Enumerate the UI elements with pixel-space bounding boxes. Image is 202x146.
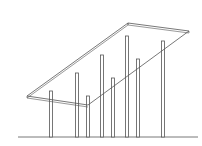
column-7 (137, 59, 140, 137)
slab-columns-diagram (0, 0, 202, 146)
column-1 (50, 91, 53, 137)
column-6 (126, 36, 129, 137)
column-8 (162, 41, 165, 137)
column-3 (87, 96, 90, 137)
